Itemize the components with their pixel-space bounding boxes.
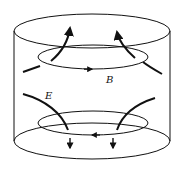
e-field-label: E bbox=[44, 90, 53, 101]
cylinder-field-diagram: B E bbox=[0, 0, 183, 170]
e-line-lower-right bbox=[117, 98, 155, 130]
cylinder-bottom-rim bbox=[14, 123, 170, 159]
e-field-lines-lower bbox=[23, 94, 155, 148]
e-line-upper-left-arrow-icon bbox=[51, 28, 70, 61]
cylinder-top-rim bbox=[14, 14, 170, 48]
e-line-upper-left-tail bbox=[23, 66, 40, 72]
e-line-upper-right-arrow-icon bbox=[117, 32, 135, 58]
cylinder bbox=[14, 14, 170, 159]
e-line-upper-right-tail bbox=[143, 62, 162, 74]
b-field-label: B bbox=[105, 74, 113, 85]
